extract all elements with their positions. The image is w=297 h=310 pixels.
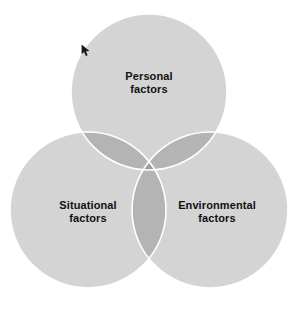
- venn-diagram-canvas: [0, 0, 297, 310]
- label-environmental-factors: Environmental factors: [160, 199, 274, 225]
- label-personal-factors: Personal factors: [99, 70, 199, 96]
- venn-diagram: Personal factors Situational factors Env…: [0, 0, 297, 310]
- label-situational-factors: Situational factors: [38, 199, 138, 225]
